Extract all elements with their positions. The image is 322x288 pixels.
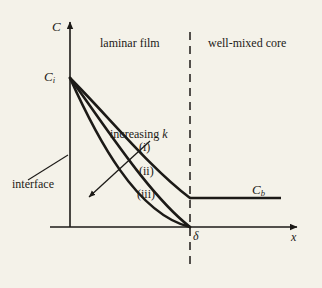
rate-constant-symbol: k (162, 127, 167, 141)
y-axis-label: C (52, 20, 61, 33)
x-axis-label: x (291, 231, 296, 243)
interface-concentration-label: Ci (44, 70, 55, 85)
curve-ii (70, 78, 190, 227)
bulk-concentration-label: Cb (252, 183, 265, 198)
well-mixed-core-region-label: well-mixed core (208, 37, 286, 49)
curve-i-label: (i) (139, 141, 150, 153)
bulk-concentration-subscript: b (261, 188, 265, 198)
bulk-concentration-base: C (252, 182, 261, 197)
increasing-k-annotation-label: increasing k (110, 128, 168, 140)
figure-canvas: C x Ci Cb δ laminar film well-mixed core… (0, 0, 322, 288)
interface-concentration-subscript: i (53, 75, 55, 85)
interface-concentration-base: C (44, 69, 53, 84)
interface-annotation-label: interface (12, 178, 54, 190)
curve-iii (70, 78, 190, 227)
film-thickness-label: δ (193, 230, 199, 242)
laminar-film-region-label: laminar film (100, 37, 160, 49)
curve-ii-label: (ii) (139, 165, 154, 177)
curve-iii-label: (iii) (137, 188, 155, 200)
